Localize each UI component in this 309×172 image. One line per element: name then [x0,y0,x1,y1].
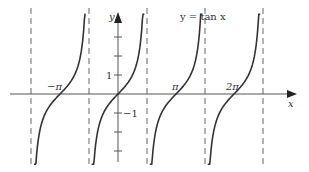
x-tick-label-neg-pi: −π [47,81,62,92]
x-tick-label-2pi: 2π [225,81,239,92]
y-tick-label-neg-1: −1 [123,108,138,119]
y-axis-label: y [108,11,115,22]
y-axis-arrow-icon [114,12,122,23]
x-axis-arrow-icon [287,90,297,98]
chart-title: y = tan x [179,11,226,22]
y-tick-label-1: 1 [106,70,112,81]
tan-chart: y = tan x y x −π π 2π 1 −1 [0,0,309,172]
x-tick-label-pi: π [171,81,179,92]
x-axis-label: x [288,98,294,109]
